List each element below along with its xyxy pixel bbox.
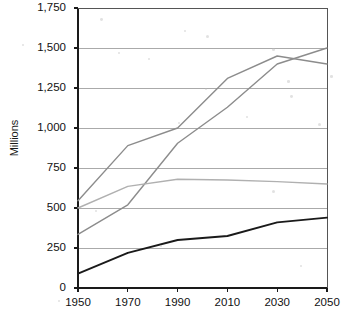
x-tick-label: 1990 bbox=[153, 297, 203, 309]
paper-speck bbox=[290, 95, 293, 98]
data-series-line bbox=[78, 218, 327, 274]
y-axis-tick-labels: 02505007501,0001,2501,5001,750 bbox=[0, 0, 66, 323]
y-tick-label: 1,000 bbox=[37, 122, 66, 134]
paper-speck bbox=[100, 18, 103, 21]
x-tick-label: 1970 bbox=[103, 297, 153, 309]
paper-speck bbox=[287, 80, 290, 83]
y-tick-label: 500 bbox=[47, 202, 66, 214]
y-tick-label: 1,500 bbox=[37, 42, 66, 54]
paper-speck bbox=[330, 75, 333, 78]
paper-speck bbox=[272, 48, 275, 51]
data-series-line bbox=[78, 48, 327, 234]
y-tick-label: 1,750 bbox=[37, 2, 66, 14]
paper-speck bbox=[178, 122, 180, 124]
y-tick-label: 1,250 bbox=[37, 82, 66, 94]
y-tick-label: 750 bbox=[47, 162, 66, 174]
paper-speck bbox=[318, 123, 321, 126]
data-series-line bbox=[78, 179, 327, 208]
x-tick-label: 1950 bbox=[53, 297, 103, 309]
x-tick-label: 2010 bbox=[202, 297, 252, 309]
y-tick-label: 0 bbox=[60, 282, 66, 294]
y-tick-label: 250 bbox=[47, 242, 66, 254]
x-tick-label: 2050 bbox=[302, 297, 345, 309]
x-tick-label: 2030 bbox=[252, 297, 302, 309]
